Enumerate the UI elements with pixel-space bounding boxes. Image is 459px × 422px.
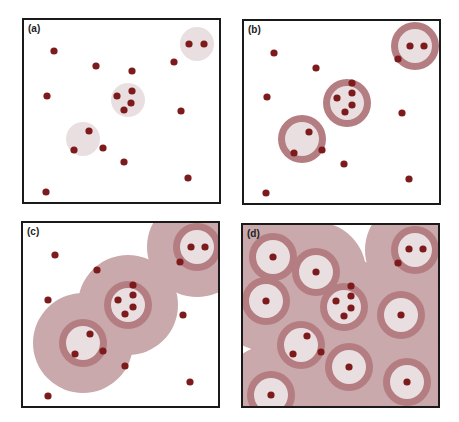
point-dot	[303, 332, 310, 339]
point-dot	[43, 92, 50, 99]
panel-label: (b)	[248, 24, 261, 35]
point-dot	[85, 127, 92, 134]
point-dot	[44, 296, 51, 303]
point-dot	[345, 363, 352, 370]
point-dot	[305, 128, 312, 135]
zone-circle	[111, 83, 145, 117]
point-dot	[394, 259, 401, 266]
point-dot	[71, 350, 78, 357]
point-dot	[348, 101, 355, 108]
point-dot	[120, 106, 127, 113]
point-dot	[186, 378, 193, 385]
point-dot	[341, 108, 348, 115]
point-dot	[99, 347, 106, 354]
point-dot	[128, 87, 135, 94]
point-dot	[120, 158, 127, 165]
panel-label: (c)	[27, 226, 39, 237]
point-dot	[176, 258, 183, 265]
panel-b: (b)	[242, 19, 441, 205]
point-dot	[405, 245, 412, 252]
point-dot	[50, 47, 57, 54]
point-dot	[127, 99, 134, 106]
point-dot	[70, 146, 77, 153]
point-dot	[201, 243, 208, 250]
point-dot	[113, 92, 120, 99]
point-dot	[99, 144, 106, 151]
point-dot	[187, 243, 194, 250]
point-dot	[340, 160, 347, 167]
point-dot	[403, 378, 410, 385]
point-dot	[340, 312, 347, 319]
point-dot	[397, 311, 404, 318]
point-dot	[267, 391, 274, 398]
point-dot	[318, 146, 325, 153]
point-dot	[332, 297, 339, 304]
point-dot	[92, 62, 99, 69]
panel-label: (a)	[28, 23, 40, 34]
point-dot	[312, 64, 319, 71]
point-dot	[129, 281, 136, 288]
point-dot	[405, 175, 412, 182]
point-dot	[51, 251, 58, 258]
point-dot	[420, 42, 427, 49]
point-dot	[347, 282, 354, 289]
point-dot	[289, 350, 296, 357]
panel-a: (a)	[22, 18, 221, 204]
ring-inner	[66, 326, 100, 360]
point-dot	[348, 79, 355, 86]
ring-inner	[111, 288, 145, 322]
point-dot	[317, 348, 324, 355]
point-dot	[269, 253, 276, 260]
ring-inner	[285, 122, 319, 156]
point-dot	[419, 245, 426, 252]
panel-label: (d)	[247, 228, 260, 239]
ring-inner	[284, 328, 318, 362]
point-dot	[270, 49, 277, 56]
point-dot	[170, 58, 177, 65]
point-dot	[262, 297, 269, 304]
point-dot	[200, 40, 207, 47]
point-dot	[42, 188, 49, 195]
point-dot	[128, 67, 135, 74]
point-dot	[121, 362, 128, 369]
point-dot	[185, 40, 192, 47]
point-dot	[177, 107, 184, 114]
point-dot	[394, 55, 401, 62]
point-dot	[93, 266, 100, 273]
point-dot	[406, 42, 413, 49]
point-dot	[179, 311, 186, 318]
point-dot	[333, 94, 340, 101]
point-dot	[398, 109, 405, 116]
panel-c: (c)	[21, 221, 220, 408]
ring-inner	[398, 233, 432, 267]
point-dot	[184, 174, 191, 181]
point-dot	[262, 189, 269, 196]
point-dot	[114, 296, 121, 303]
point-dot	[263, 93, 270, 100]
point-dot	[348, 89, 355, 96]
point-dot	[347, 292, 354, 299]
point-dot	[86, 330, 93, 337]
zone-circle	[180, 27, 214, 61]
point-dot	[129, 303, 136, 310]
panel-d: (d)	[241, 223, 440, 408]
point-dot	[44, 392, 51, 399]
point-dot	[121, 310, 128, 317]
ring-inner	[180, 230, 214, 264]
point-dot	[129, 291, 136, 298]
point-dot	[312, 268, 319, 275]
point-dot	[290, 149, 297, 156]
point-dot	[347, 304, 354, 311]
